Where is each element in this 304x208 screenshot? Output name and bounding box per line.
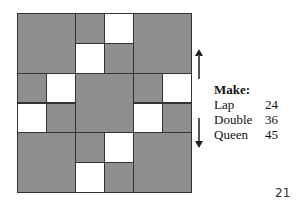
legend-value: 24 [265, 97, 278, 112]
legend-row-queen: Queen 45 [214, 127, 278, 142]
quilt-patch-dark [17, 13, 76, 74]
arrow-down-shaft [198, 118, 200, 142]
quilt-patch-light [75, 43, 105, 74]
quilt-patch-dark [17, 132, 76, 193]
legend-row-lap: Lap 24 [214, 97, 278, 112]
quilt-patch-dark [104, 162, 134, 193]
quilt-patch-dark [162, 103, 192, 134]
arrow-up-shaft [198, 55, 200, 79]
quilt-patch-dark [75, 73, 134, 134]
quilt-patch-light [162, 73, 192, 104]
quilt-patch-light [133, 103, 163, 134]
quilt-patch-dark [75, 13, 105, 44]
legend-label: Queen [214, 127, 248, 142]
quilt-patch-light [104, 132, 134, 163]
quilt-patch-light [75, 162, 105, 193]
page-number: 21 [275, 186, 290, 200]
quilt-patch-dark [17, 73, 47, 104]
quilt-patch-dark [104, 43, 134, 74]
legend-label: Lap [214, 97, 234, 112]
quilt-patch-light [46, 73, 76, 104]
quilt-patch-light [17, 103, 47, 134]
quilt-patch-dark [46, 103, 76, 134]
legend-value: 45 [265, 127, 278, 142]
quilt-patch-dark [133, 73, 163, 104]
arrow-down-icon [195, 141, 203, 148]
legend-label: Double [214, 112, 252, 127]
quilt-patch-dark [133, 132, 192, 193]
quilt-patch-light [104, 13, 134, 44]
legend-row-double: Double 36 [214, 112, 278, 127]
legend-title: Make: [214, 82, 278, 97]
quilt-block-diagram [17, 13, 191, 192]
quilt-patch-dark [133, 13, 192, 74]
legend-value: 36 [265, 112, 278, 127]
size-legend: Make: Lap 24 Double 36 Queen 45 [214, 82, 278, 142]
quilt-patch-dark [75, 132, 105, 163]
